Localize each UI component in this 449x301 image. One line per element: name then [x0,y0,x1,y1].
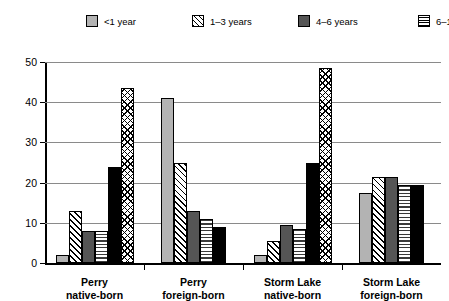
y-tick-50 [40,62,45,63]
bar-group-1 [161,62,226,263]
bar-g2-s3[interactable] [293,229,306,263]
y-tick-40 [40,102,45,103]
bar-g3-s3[interactable] [398,185,411,263]
bar-g0-s1[interactable] [69,211,82,263]
y-axis-label-0: 0 [13,258,37,268]
chart-page: <1 year1–3 years4–6 years6–10 years10+ y… [0,0,449,301]
legend-item-1[interactable]: 1–3 years [192,15,298,27]
legend-item-label: 4–6 years [316,16,358,27]
x-axis-category-label-2: Storm Lake native-born [243,276,342,301]
bar-g1-s1[interactable] [174,163,187,264]
bar-g2-s1[interactable] [267,241,280,263]
bar-g2-s0[interactable] [254,255,267,263]
legend-item-2[interactable]: 4–6 years [298,15,418,27]
legend-item-label: 6–10 years [436,16,449,27]
y-tick-30 [40,142,45,143]
bar-g3-s2[interactable] [385,177,398,263]
bar-g3-s0[interactable] [359,193,372,263]
legend-item-0[interactable]: <1 year [86,15,192,27]
bar-group-3 [359,62,424,263]
bar-g1-s2[interactable] [187,211,200,263]
y-tick-20 [40,183,45,184]
x-axis-category-label-3: Storm Lake foreign-born [342,276,441,301]
x-tick-2 [342,265,343,270]
x-axis-category-label-0: Perry native-born [45,276,144,301]
solid-dark-swatch-icon [298,15,310,27]
bar-g1-s3[interactable] [200,219,213,263]
diagonal-swatch-icon [192,15,204,27]
horizontal-swatch-icon [418,15,430,27]
chart-legend: <1 year1–3 years4–6 years6–10 years10+ y… [86,11,426,31]
y-axis-label-40: 40 [13,97,37,107]
bar-g1-s0[interactable] [161,98,174,263]
y-tick-0 [40,263,45,264]
bar-g1-s4[interactable] [213,227,226,263]
bar-g2-s4[interactable] [306,163,319,264]
bar-g2-s5[interactable] [319,68,332,263]
bar-g2-s2[interactable] [280,225,293,263]
x-tick-1 [243,265,244,270]
bar-group-0 [56,62,134,263]
legend-item-label: 1–3 years [210,16,252,27]
y-tick-10 [40,223,45,224]
y-axis [45,62,47,265]
y-axis-label-50: 50 [13,57,37,67]
bar-g3-s4[interactable] [411,185,424,263]
y-axis-label-20: 20 [13,178,37,188]
bar-g0-s3[interactable] [95,231,108,263]
plot-area: 01020304050Perry native-bornPerry foreig… [45,62,441,265]
bar-g0-s0[interactable] [56,255,69,263]
solid-light-swatch-icon [86,15,98,27]
y-axis-label-10: 10 [13,218,37,228]
bar-g3-s1[interactable] [372,177,385,263]
bar-g0-s2[interactable] [82,231,95,263]
y-axis-label-30: 30 [13,137,37,147]
bar-g0-s5[interactable] [121,88,134,263]
bar-group-2 [254,62,332,263]
bar-g0-s4[interactable] [108,167,121,263]
legend-item-label: <1 year [104,16,136,27]
x-tick-0 [144,265,145,270]
legend-item-3[interactable]: 6–10 years [418,15,449,27]
x-axis-category-label-1: Perry foreign-born [144,276,243,301]
